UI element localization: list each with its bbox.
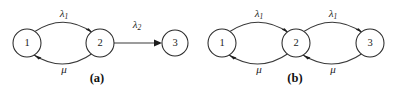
panel-a: 1 2 3 λ1 μ λ2 (a): [13, 7, 188, 85]
b-edge-2-3-forward: [303, 22, 363, 33]
a-node-3-label: 3: [172, 37, 177, 48]
b-node-1[interactable]: 1: [208, 29, 236, 57]
a-node-2-label: 2: [97, 37, 102, 48]
panel-a-caption: (a): [90, 71, 105, 85]
figure-container: 1 2 3 λ1 μ λ2 (a): [0, 0, 395, 91]
b-rate-label-mu-right: μ: [329, 63, 336, 75]
a-node-1[interactable]: 1: [13, 29, 41, 57]
b-edge-1-2-forward: [229, 22, 289, 33]
b-edge-2-3-path: [303, 22, 363, 33]
b-rate-label-mu-left: μ: [255, 63, 262, 75]
a-rate-label-lambda2: λ2: [132, 18, 142, 32]
a-rate-label-lambda1: λ1: [59, 7, 69, 21]
b-node-3[interactable]: 3: [356, 29, 384, 57]
a-edge-2-3-forward: [114, 40, 162, 47]
a-rate-label-mu: μ: [60, 63, 67, 75]
b-node-1-label: 1: [219, 37, 224, 48]
b-node-3-label: 3: [367, 37, 372, 48]
state-transition-diagram: 1 2 3 λ1 μ λ2 (a): [0, 0, 395, 91]
a-edge-2-3-arrowhead: [154, 40, 162, 47]
b-rate-label-lambda1-right: λ1: [328, 7, 338, 21]
b-node-2[interactable]: 2: [282, 29, 310, 57]
b-node-2-label: 2: [293, 37, 298, 48]
b-edge-1-2-path: [229, 22, 289, 33]
a-node-1-label: 1: [24, 37, 29, 48]
a-node-3[interactable]: 3: [162, 30, 188, 56]
a-edge-1-2-path: [34, 22, 93, 33]
a-node-2[interactable]: 2: [86, 29, 114, 57]
b-rate-label-lambda1-left: λ1: [254, 7, 264, 21]
panel-b-caption: (b): [287, 71, 302, 85]
panel-b: 1 2 3 λ1 μ λ1 μ (b): [208, 7, 384, 85]
a-edge-1-2-forward: [34, 22, 93, 33]
